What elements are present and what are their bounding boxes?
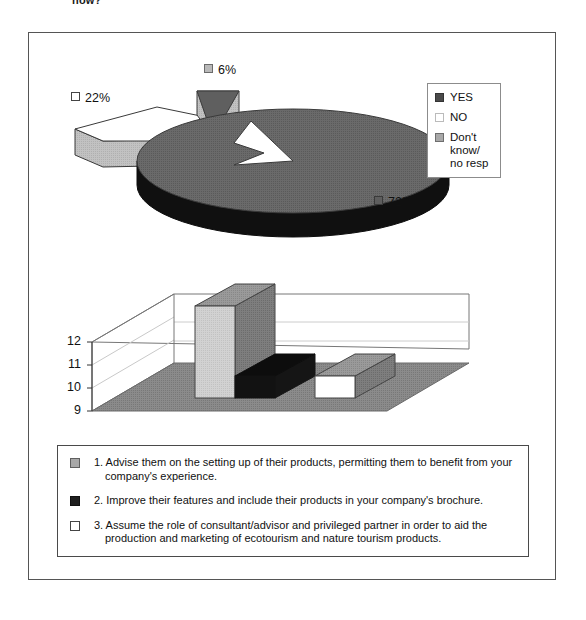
pie-label-no-text: 22% xyxy=(85,91,110,105)
list-item[interactable]: 3. Assume the role of consultant/advisor… xyxy=(70,519,518,546)
bar-ylabel-12: 12 xyxy=(59,334,81,348)
pie-label-yes: 72% xyxy=(374,195,413,209)
pie-label-dontknow: 6% xyxy=(204,63,236,77)
pie-chart: 22% 6% 72% YES NO Don't know/ no resp xyxy=(29,33,557,248)
pie-label-dontknow-text: 6% xyxy=(218,63,236,77)
pie-legend-swatch-dontknow xyxy=(435,133,444,142)
item-2-swatch xyxy=(70,496,80,506)
item-3-swatch xyxy=(70,521,80,531)
list-item[interactable]: 2. Improve their features and include th… xyxy=(70,494,518,508)
pie-legend-label-dontknow: Don't know/ no resp xyxy=(450,131,488,170)
pie-label-no-swatch xyxy=(71,92,80,101)
item-2-text: 2. Improve their features and include th… xyxy=(94,494,483,508)
pie-label-yes-text: 72% xyxy=(388,195,413,209)
bar-chart: 12 11 10 9 xyxy=(29,248,557,433)
pie-legend-swatch-yes xyxy=(435,93,444,102)
item-1-text: 1. Advise them on the setting up of thei… xyxy=(94,456,518,483)
pie-label-no: 22% xyxy=(71,91,110,105)
items-legend-box: 1. Advise them on the setting up of thei… xyxy=(57,445,529,557)
bar-ylabel-11: 11 xyxy=(59,357,81,371)
item-3-text: 3. Assume the role of consultant/advisor… xyxy=(94,519,518,546)
item-1-swatch xyxy=(70,458,80,468)
pie-legend-item-dontknow[interactable]: Don't know/ no resp xyxy=(435,131,493,170)
pie-legend: YES NO Don't know/ no resp xyxy=(427,83,501,178)
bar-3-front xyxy=(315,376,355,398)
pie-legend-swatch-no xyxy=(435,113,444,122)
pie-legend-label-yes: YES xyxy=(450,91,473,104)
caption-fragment: now? xyxy=(72,0,102,6)
pie-legend-item-yes[interactable]: YES xyxy=(435,91,493,104)
bar-1-front xyxy=(195,306,235,398)
bar-ylabel-9: 9 xyxy=(59,403,81,417)
bar-ylabel-10: 10 xyxy=(59,380,81,394)
pie-label-yes-swatch xyxy=(374,196,383,205)
figure-frame: 22% 6% 72% YES NO Don't know/ no resp xyxy=(28,32,556,580)
bar-2-front xyxy=(235,376,275,398)
bar-chart-graphic xyxy=(29,248,557,433)
pie-legend-label-no: NO xyxy=(450,111,467,124)
list-item[interactable]: 1. Advise them on the setting up of thei… xyxy=(70,456,518,483)
pie-legend-item-no[interactable]: NO xyxy=(435,111,493,124)
pie-label-dontknow-swatch xyxy=(204,64,213,73)
